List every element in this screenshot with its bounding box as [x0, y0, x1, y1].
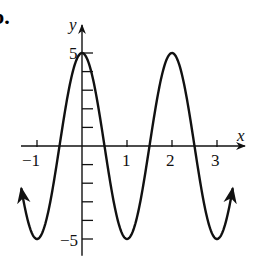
x-tick-label: 2: [166, 152, 175, 169]
x-tick-label: 1: [122, 152, 131, 169]
axes: [21, 25, 245, 256]
y-tick-label: −5: [60, 232, 78, 249]
x-tick-label: 3: [211, 152, 220, 169]
y-tick-label: 5: [69, 45, 78, 62]
cosine-graph: [0, 0, 253, 262]
x-axis-label: x: [237, 127, 245, 144]
y-axis-label: y: [69, 16, 77, 33]
x-tick-label: −1: [22, 152, 40, 169]
